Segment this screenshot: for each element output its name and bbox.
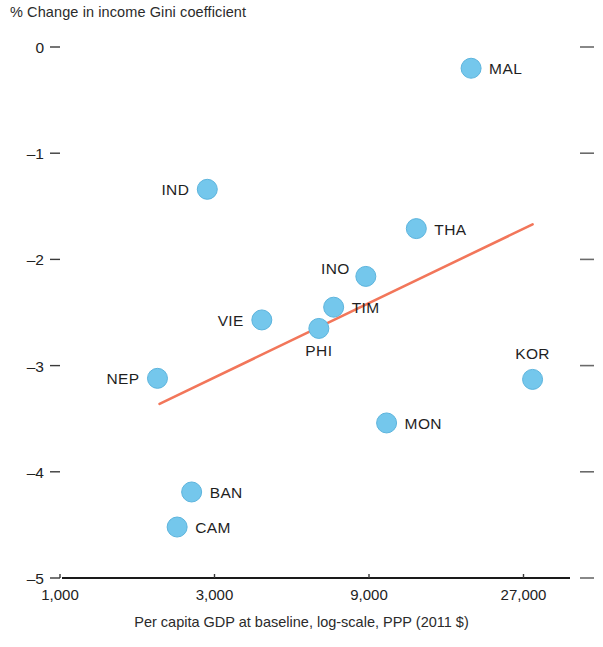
y-axis-ticks: 0–1–2–3–4–5 xyxy=(27,39,60,587)
data-point-marker[interactable] xyxy=(197,179,217,199)
data-point-marker[interactable] xyxy=(523,369,543,389)
x-tick-label: 27,000 xyxy=(501,586,547,603)
data-point-marker[interactable] xyxy=(252,310,272,330)
data-point-marker[interactable] xyxy=(182,482,202,502)
x-axis-title: Per capita GDP at baseline, log-scale, P… xyxy=(0,614,603,630)
data-point-marker[interactable] xyxy=(147,368,167,388)
data-point-label: KOR xyxy=(515,345,550,362)
data-point-label: BAN xyxy=(210,484,243,501)
x-tick-label: 9,000 xyxy=(350,586,388,603)
data-point-marker[interactable] xyxy=(324,297,344,317)
data-point-label: VIE xyxy=(218,312,244,329)
data-point-label: IND xyxy=(161,181,189,198)
data-point-marker[interactable] xyxy=(461,58,481,78)
data-point-label: CAM xyxy=(195,519,231,536)
data-point-label: THA xyxy=(434,221,466,238)
y-tick-label: –3 xyxy=(27,358,44,375)
data-point-label: PHI xyxy=(305,342,332,359)
data-point-marker[interactable] xyxy=(356,266,376,286)
data-point-label: MON xyxy=(405,415,442,432)
data-points xyxy=(147,58,542,537)
y-tick-label: –1 xyxy=(27,145,44,162)
y-tick-label: –5 xyxy=(27,570,44,587)
y-tick-label: –2 xyxy=(27,251,44,268)
data-point-label: INO xyxy=(321,260,350,277)
y-tick-label: 0 xyxy=(35,39,44,56)
y-tick-label: –4 xyxy=(27,464,45,481)
data-point-label: NEP xyxy=(106,370,139,387)
data-point-marker[interactable] xyxy=(406,219,426,239)
trendline-path xyxy=(160,224,533,403)
data-point-labels: MALINDTHAINOTIMVIEPHINEPKORMONBANCAM xyxy=(106,60,550,536)
data-point-label: TIM xyxy=(352,299,380,316)
trendline xyxy=(160,224,533,403)
data-point-marker[interactable] xyxy=(167,517,187,537)
data-point-marker[interactable] xyxy=(377,413,397,433)
y-axis-ticks-right xyxy=(580,47,594,578)
plot-area: 0–1–2–3–4–5 1,0003,0009,00027,000 MALIND… xyxy=(0,0,603,647)
x-tick-label: 1,000 xyxy=(41,586,79,603)
x-tick-label: 3,000 xyxy=(196,586,234,603)
scatter-chart: % Change in income Gini coefficient 0–1–… xyxy=(0,0,603,647)
data-point-marker[interactable] xyxy=(309,318,329,338)
data-point-label: MAL xyxy=(489,60,522,77)
